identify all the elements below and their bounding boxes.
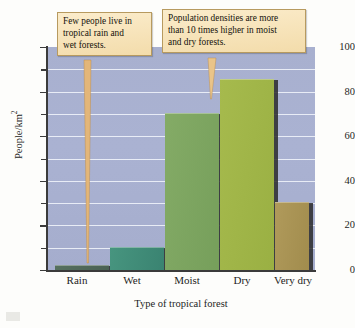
callout-line-3: and dry forests. bbox=[168, 37, 301, 49]
annotation-callout-rain-wet[interactable]: Few people live in tropical rain and wet… bbox=[57, 12, 152, 56]
callout-line-1: Few people live in bbox=[63, 16, 147, 28]
callout-line-2: than 10 times higher in moist bbox=[168, 25, 301, 37]
callout-line-1: Population densities are more bbox=[168, 13, 301, 25]
callout-line-2: tropical rain and bbox=[63, 28, 147, 40]
bar-chart-figure: 0 20 40 60 80 100 People/km2 Type of tro… bbox=[0, 0, 355, 328]
annotation-callout-moist-dry[interactable]: Population densities are more than 10 ti… bbox=[162, 9, 306, 53]
figure-caption-mark bbox=[6, 312, 20, 321]
callout-line-3: wet forests. bbox=[63, 40, 147, 52]
